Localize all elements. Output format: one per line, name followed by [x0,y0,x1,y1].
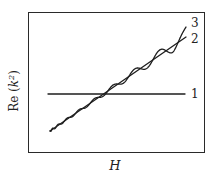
y-axis-label: Re (k2) [7,70,21,112]
curve-3-label: 3 [191,16,199,30]
curve-3 [50,27,186,131]
x-axis-label: H [108,158,121,173]
curve-2-label: 2 [191,32,199,46]
plot-frame [29,13,205,153]
chart: 1 2 3 H Re (k2) [0,0,217,179]
curve-1-label: 1 [191,87,199,101]
